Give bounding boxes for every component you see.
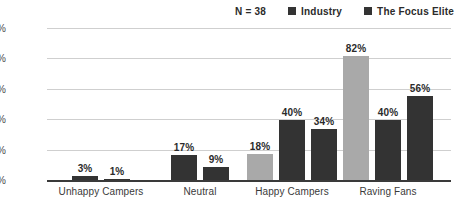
bar[interactable] <box>407 96 433 181</box>
bar[interactable] <box>311 129 337 181</box>
x-axis-category-label: Raving Fans <box>359 186 416 197</box>
bar-value-label: 56% <box>410 83 430 94</box>
bar-value-label: 40% <box>282 107 302 118</box>
bar-value-label: 40% <box>378 107 398 118</box>
bar[interactable] <box>279 120 305 181</box>
bar-chart: N = 38 Industry The Focus Elite 0%20%40%… <box>0 0 458 209</box>
x-axis-category-label: Unhappy Campers <box>59 186 144 197</box>
y-axis-tick-label: 80% <box>0 53 6 64</box>
plot-area: 3%1%17%9%18%40%34%82%40%56% <box>47 29 451 181</box>
bar[interactable] <box>375 120 401 181</box>
chart-legend: N = 38 Industry The Focus Elite <box>235 4 454 18</box>
bar[interactable] <box>171 155 197 181</box>
bar-value-label: 34% <box>314 116 334 127</box>
legend-label-industry: Industry <box>301 6 342 17</box>
bar-value-label: 17% <box>174 142 194 153</box>
bar[interactable] <box>203 167 229 181</box>
bar[interactable] <box>343 56 369 181</box>
bar-value-label: 1% <box>110 166 125 177</box>
legend-label-focus-elite: The Focus Elite <box>377 6 454 17</box>
y-axis-tick-label: 40% <box>0 114 6 125</box>
x-axis-category-label: Neutral <box>184 186 217 197</box>
legend-swatch-industry <box>288 7 296 15</box>
bar-value-label: 3% <box>78 163 93 174</box>
gridline <box>47 89 451 90</box>
sample-size-label: N = 38 <box>235 6 266 17</box>
y-axis-tick-label: 0% <box>0 175 6 186</box>
y-axis-tick-label: 100% <box>0 23 6 34</box>
bar[interactable] <box>247 154 273 181</box>
y-axis-tick-label: 20% <box>0 145 6 156</box>
bar-value-label: 82% <box>346 43 366 54</box>
bar-value-label: 9% <box>209 154 224 165</box>
legend-item-focus-elite[interactable]: The Focus Elite <box>364 6 454 17</box>
x-axis-category-label: Happy Campers <box>255 186 329 197</box>
bar-value-label: 18% <box>250 141 270 152</box>
legend-swatch-focus-elite <box>364 7 372 15</box>
legend-item-industry[interactable]: Industry <box>288 6 342 17</box>
y-axis-tick-label: 60% <box>0 84 6 95</box>
gridline <box>47 28 451 29</box>
x-axis-baseline <box>47 180 451 182</box>
gridline <box>47 58 451 59</box>
